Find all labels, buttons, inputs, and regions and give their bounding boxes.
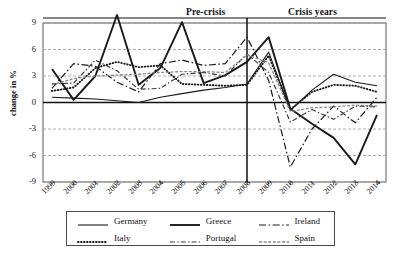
- legend-item-ireland[interactable]: Ireland: [258, 212, 334, 229]
- legend-swatch-dashed-gray: [258, 237, 290, 247]
- legend-item-greece[interactable]: Greece: [169, 212, 258, 229]
- legend-item-italy[interactable]: Italy: [67, 229, 169, 246]
- legend-line-sample: [169, 216, 201, 226]
- legend-line-sample: [169, 233, 201, 243]
- legend-line-sample: [258, 216, 290, 226]
- legend-label: Greece: [206, 216, 231, 226]
- legend-label: Portugal: [206, 233, 237, 243]
- legend-swatch-dotted: [77, 237, 109, 247]
- legend-row: ItalyPortugalSpain: [67, 229, 334, 246]
- legend-swatch-solid-thin: [77, 220, 109, 230]
- legend-row: GermanyGreeceIreland: [67, 212, 334, 229]
- crisis-years-label: Crisis years: [288, 7, 337, 17]
- y-tick-label: -6: [20, 150, 36, 160]
- y-axis-title: change in %: [8, 61, 18, 125]
- figure: Pre-crisis Crisis years change in % 9630…: [0, 0, 405, 258]
- legend-label: Ireland: [295, 216, 320, 226]
- pre-crisis-label: Pre-crisis: [186, 7, 225, 17]
- legend-label: Italy: [114, 233, 131, 243]
- legend-item-spain[interactable]: Spain: [258, 229, 334, 246]
- series-line-italy: [52, 56, 377, 110]
- y-tick-label: -3: [20, 123, 36, 133]
- legend-line-sample: [77, 216, 109, 226]
- legend-swatch-dash-dot-long: [258, 220, 290, 230]
- legend-label: Spain: [295, 233, 316, 243]
- y-tick-label: 9: [20, 17, 36, 27]
- legend-swatch-solid-thick: [169, 220, 201, 230]
- series-lines: [52, 15, 377, 167]
- y-tick-label: 3: [20, 70, 36, 80]
- legend-item-portugal[interactable]: Portugal: [169, 229, 258, 246]
- y-tick-label: 6: [20, 44, 36, 54]
- legend-line-sample: [77, 233, 109, 243]
- y-tick-label: 0: [20, 97, 36, 107]
- legend-label: Germany: [114, 216, 148, 226]
- chart-legend: GermanyGreeceIrelandItalyPortugalSpain: [66, 211, 335, 246]
- series-line-greece: [52, 15, 377, 164]
- legend-swatch-dash-dot-short: [169, 237, 201, 247]
- legend-line-sample: [258, 233, 290, 243]
- y-tick-label: -9: [20, 176, 36, 186]
- legend-item-germany[interactable]: Germany: [67, 212, 169, 229]
